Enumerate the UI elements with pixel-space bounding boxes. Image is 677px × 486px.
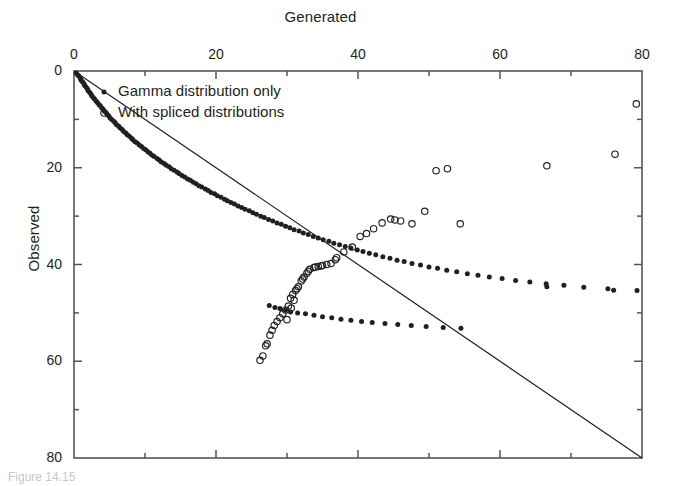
data-point-filled bbox=[402, 259, 407, 264]
data-point-filled bbox=[272, 305, 277, 310]
data-point-filled bbox=[418, 262, 423, 267]
data-point-filled bbox=[306, 232, 311, 237]
data-point-filled bbox=[295, 310, 300, 315]
data-point-filled bbox=[279, 222, 284, 227]
data-point-open bbox=[379, 220, 385, 226]
data-point-filled bbox=[513, 278, 518, 283]
data-point-filled bbox=[611, 288, 616, 293]
data-point-filled bbox=[458, 326, 463, 331]
data-point-open bbox=[370, 226, 376, 232]
data-point-filled bbox=[321, 237, 326, 242]
data-point-filled bbox=[359, 319, 364, 324]
x-tick-label: 60 bbox=[480, 46, 520, 62]
reference-line bbox=[74, 71, 642, 458]
data-point-filled bbox=[303, 311, 308, 316]
data-point-filled bbox=[254, 212, 259, 217]
figure-caption: Figure 14.15 bbox=[8, 470, 75, 484]
y-tick-label: 80 bbox=[22, 449, 62, 465]
data-point-filled bbox=[283, 224, 288, 229]
data-point-filled bbox=[373, 252, 378, 257]
legend-label-spliced: With spliced distributions bbox=[118, 103, 284, 120]
data-point-filled bbox=[395, 258, 400, 263]
data-point-filled bbox=[262, 215, 267, 220]
data-point-filled bbox=[267, 303, 272, 308]
data-point-filled bbox=[316, 235, 321, 240]
x-tick-label: 0 bbox=[54, 46, 94, 62]
data-point-filled bbox=[301, 231, 306, 236]
data-point-open bbox=[433, 167, 439, 173]
data-point-open bbox=[387, 216, 393, 222]
data-point-filled bbox=[292, 227, 297, 232]
x-tick-label: 20 bbox=[196, 46, 236, 62]
data-point-filled bbox=[270, 218, 275, 223]
data-point-filled bbox=[581, 285, 586, 290]
data-point-open bbox=[328, 260, 334, 266]
data-point-filled bbox=[409, 323, 414, 328]
data-point-filled bbox=[475, 273, 480, 278]
data-point-filled bbox=[605, 286, 610, 291]
data-point-open bbox=[299, 276, 305, 282]
data-point-filled bbox=[487, 275, 492, 280]
data-point-open bbox=[363, 230, 369, 236]
data-point-filled bbox=[360, 249, 365, 254]
data-point-open bbox=[612, 151, 618, 157]
data-point-filled bbox=[435, 266, 440, 271]
data-point-open bbox=[264, 341, 270, 347]
data-point-filled bbox=[320, 314, 325, 319]
data-point-filled bbox=[544, 284, 549, 289]
data-point-filled bbox=[348, 318, 353, 323]
data-point-open bbox=[284, 316, 290, 322]
data-point-open bbox=[422, 208, 428, 214]
data-point-filled bbox=[331, 241, 336, 246]
data-point-filled bbox=[635, 288, 640, 293]
data-point-open bbox=[457, 221, 463, 227]
data-point-filled bbox=[266, 217, 271, 222]
data-point-filled bbox=[500, 276, 505, 281]
data-point-open bbox=[544, 163, 550, 169]
data-point-filled bbox=[527, 279, 532, 284]
data-point-open bbox=[444, 166, 450, 172]
data-point-filled bbox=[441, 325, 446, 330]
data-point-filled bbox=[370, 320, 375, 325]
data-point-filled bbox=[326, 239, 331, 244]
data-point-filled bbox=[287, 225, 292, 230]
data-point-open bbox=[332, 256, 338, 262]
x-tick-label: 40 bbox=[338, 46, 378, 62]
caption-strip: Figure 14.15 bbox=[0, 470, 677, 486]
data-point-filled bbox=[329, 315, 334, 320]
series-with-spliced-distributions bbox=[257, 101, 640, 364]
y-tick-label: 20 bbox=[22, 159, 62, 175]
legend-label-gamma: Gamma distribution only bbox=[118, 82, 281, 99]
data-point-filled bbox=[409, 261, 414, 266]
data-point-filled bbox=[311, 313, 316, 318]
data-point-filled bbox=[243, 207, 248, 212]
one-to-one-reference-line bbox=[74, 71, 642, 458]
data-point-filled bbox=[424, 324, 429, 329]
data-point-open bbox=[409, 221, 415, 227]
y-tick-label: 40 bbox=[22, 256, 62, 272]
data-point-filled bbox=[338, 317, 343, 322]
x-tick-label: 80 bbox=[622, 46, 662, 62]
data-point-filled bbox=[561, 283, 566, 288]
plot-canvas bbox=[0, 0, 677, 486]
data-point-filled bbox=[297, 229, 302, 234]
data-point-open bbox=[294, 285, 300, 291]
y-tick-label: 0 bbox=[22, 62, 62, 78]
data-point-filled bbox=[382, 321, 387, 326]
legend-marker-filled-dot bbox=[102, 90, 107, 95]
data-point-filled bbox=[387, 256, 392, 261]
data-point-filled bbox=[454, 269, 459, 274]
data-point-open bbox=[357, 233, 363, 239]
figure-container: Generated Observed 020406080 020406080 G… bbox=[0, 0, 677, 486]
data-point-filled bbox=[311, 234, 316, 239]
data-point-filled bbox=[465, 271, 470, 276]
data-point-filled bbox=[380, 254, 385, 259]
data-point-filled bbox=[444, 268, 449, 273]
y-tick-label: 60 bbox=[22, 352, 62, 368]
data-point-open bbox=[305, 268, 311, 274]
data-point-open bbox=[633, 101, 639, 107]
data-point-filled bbox=[395, 322, 400, 327]
data-point-filled bbox=[367, 251, 372, 256]
data-point-filled bbox=[275, 220, 280, 225]
data-point-filled bbox=[337, 242, 342, 247]
